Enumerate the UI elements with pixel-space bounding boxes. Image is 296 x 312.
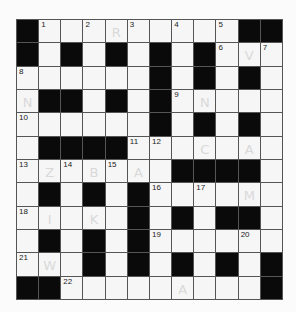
crossword-cell[interactable]: [261, 230, 282, 252]
crossword-cell[interactable]: 14: [61, 160, 82, 182]
crossword-cell[interactable]: [106, 67, 127, 89]
crossword-cell[interactable]: I: [39, 207, 60, 229]
crossword-cell[interactable]: [150, 20, 171, 42]
crossword-cell[interactable]: 20: [239, 230, 260, 252]
crossword-cell[interactable]: [106, 253, 127, 275]
crossword-cell[interactable]: [61, 207, 82, 229]
crossword-cell[interactable]: 13: [17, 160, 38, 182]
crossword-cell[interactable]: [239, 90, 260, 112]
crossword-cell[interactable]: [261, 137, 282, 159]
crossword-cell[interactable]: B: [83, 160, 104, 182]
crossword-cell[interactable]: 7: [261, 43, 282, 65]
crossword-cell[interactable]: [106, 277, 127, 299]
crossword-cell[interactable]: R: [106, 20, 127, 42]
crossword-cell[interactable]: 1: [39, 20, 60, 42]
crossword-cell[interactable]: [106, 113, 127, 135]
crossword-cell[interactable]: [194, 277, 215, 299]
crossword-cell[interactable]: [61, 230, 82, 252]
crossword-cell[interactable]: [261, 113, 282, 135]
crossword-cell[interactable]: [216, 67, 237, 89]
crossword-cell[interactable]: [194, 20, 215, 42]
crossword-cell[interactable]: A: [172, 277, 193, 299]
crossword-cell[interactable]: [17, 230, 38, 252]
crossword-cell[interactable]: 18: [17, 207, 38, 229]
crossword-cell[interactable]: [83, 67, 104, 89]
crossword-cell[interactable]: 21: [17, 253, 38, 275]
crossword-cell[interactable]: 10: [17, 113, 38, 135]
crossword-cell[interactable]: N: [194, 90, 215, 112]
crossword-cell[interactable]: [194, 230, 215, 252]
crossword-cell[interactable]: A: [239, 137, 260, 159]
crossword-cell[interactable]: [172, 113, 193, 135]
crossword-cell[interactable]: N: [17, 90, 38, 112]
crossword-cell[interactable]: [106, 183, 127, 205]
crossword-cell[interactable]: [150, 253, 171, 275]
crossword-cell[interactable]: [172, 67, 193, 89]
crossword-cell[interactable]: [128, 67, 149, 89]
crossword-cell[interactable]: 6: [216, 43, 237, 65]
crossword-cell[interactable]: [216, 137, 237, 159]
crossword-cell[interactable]: [39, 67, 60, 89]
crossword-cell[interactable]: [17, 137, 38, 159]
crossword-cell[interactable]: [172, 43, 193, 65]
crossword-cell[interactable]: [194, 253, 215, 275]
crossword-cell[interactable]: A: [128, 160, 149, 182]
crossword-cell[interactable]: [261, 90, 282, 112]
crossword-cell[interactable]: 15: [106, 160, 127, 182]
crossword-cell[interactable]: [261, 183, 282, 205]
crossword-cell[interactable]: 4: [172, 20, 193, 42]
crossword-cell[interactable]: [150, 207, 171, 229]
crossword-cell[interactable]: [61, 183, 82, 205]
crossword-cell[interactable]: 11: [128, 137, 149, 159]
crossword-cell[interactable]: 3: [128, 20, 149, 42]
crossword-cell[interactable]: 5: [216, 20, 237, 42]
crossword-cell[interactable]: [83, 113, 104, 135]
crossword-cell[interactable]: [216, 230, 237, 252]
crossword-cell[interactable]: K: [83, 207, 104, 229]
crossword-cell[interactable]: [61, 253, 82, 275]
crossword-cell[interactable]: 2: [83, 20, 104, 42]
crossword-cell[interactable]: 17: [194, 183, 215, 205]
crossword-cell[interactable]: [17, 183, 38, 205]
crossword-cell[interactable]: V: [239, 43, 260, 65]
crossword-cell[interactable]: [172, 230, 193, 252]
crossword-cell[interactable]: M: [239, 183, 260, 205]
crossword-cell[interactable]: [194, 207, 215, 229]
crossword-cell[interactable]: [61, 67, 82, 89]
crossword-cell[interactable]: [261, 67, 282, 89]
crossword-cell[interactable]: W: [39, 253, 60, 275]
crossword-cell[interactable]: [128, 90, 149, 112]
crossword-cell[interactable]: [216, 277, 237, 299]
crossword-cell[interactable]: 9: [172, 90, 193, 112]
crossword-cell[interactable]: [216, 183, 237, 205]
crossword-cell[interactable]: [106, 230, 127, 252]
crossword-cell[interactable]: [150, 277, 171, 299]
crossword-cell[interactable]: [239, 277, 260, 299]
crossword-cell[interactable]: [172, 183, 193, 205]
crossword-cell[interactable]: [39, 113, 60, 135]
crossword-cell[interactable]: 8: [17, 67, 38, 89]
crossword-cell[interactable]: [261, 160, 282, 182]
crossword-cell[interactable]: C: [194, 137, 215, 159]
crossword-cell[interactable]: [216, 113, 237, 135]
crossword-cell[interactable]: [128, 43, 149, 65]
crossword-cell[interactable]: [61, 113, 82, 135]
crossword-cell[interactable]: 12: [150, 137, 171, 159]
crossword-cell[interactable]: [106, 207, 127, 229]
crossword-cell[interactable]: [83, 90, 104, 112]
crossword-cell[interactable]: [216, 90, 237, 112]
crossword-cell[interactable]: [83, 277, 104, 299]
crossword-cell[interactable]: 19: [150, 230, 171, 252]
crossword-cell[interactable]: Z: [39, 160, 60, 182]
crossword-cell[interactable]: [83, 43, 104, 65]
crossword-cell[interactable]: [172, 137, 193, 159]
crossword-cell[interactable]: [128, 277, 149, 299]
crossword-cell[interactable]: 22: [61, 277, 82, 299]
crossword-cell[interactable]: [150, 160, 171, 182]
crossword-cell[interactable]: [128, 113, 149, 135]
crossword-cell[interactable]: [61, 20, 82, 42]
crossword-cell[interactable]: 16: [150, 183, 171, 205]
crossword-cell[interactable]: [261, 207, 282, 229]
crossword-cell[interactable]: [39, 43, 60, 65]
crossword-cell[interactable]: [239, 253, 260, 275]
